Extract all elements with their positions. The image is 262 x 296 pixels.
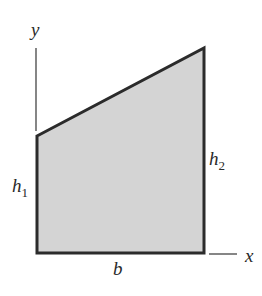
h1-base: h	[12, 175, 22, 196]
diagram-canvas	[0, 0, 262, 296]
h1-subscript: 1	[22, 185, 29, 200]
trapezoid-shape	[37, 48, 204, 253]
h2-subscript: 2	[219, 158, 226, 173]
h2-base: h	[209, 148, 219, 169]
y-axis-label: y	[31, 20, 39, 39]
h1-label: h1	[12, 176, 28, 195]
x-axis-label: x	[245, 246, 253, 265]
base-label: b	[113, 259, 123, 278]
h2-label: h2	[209, 149, 225, 168]
